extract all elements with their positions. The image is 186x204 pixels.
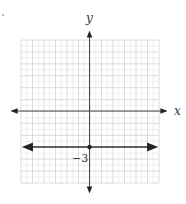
intercept-label: −3 bbox=[72, 152, 88, 165]
y-intercept-point bbox=[87, 145, 91, 149]
y-axis-label: y bbox=[85, 11, 93, 25]
x-axis-label: x bbox=[174, 104, 181, 118]
coordinate-plane: y x −3 bbox=[0, 0, 186, 204]
